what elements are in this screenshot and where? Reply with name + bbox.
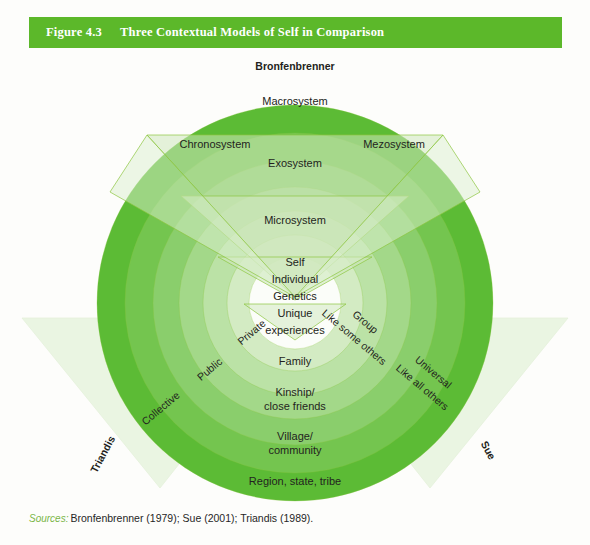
contextual-models-diagram: Bronfenbrenner Macrosystem Exosystem Mic… [0, 48, 590, 503]
sources-text: Bronfenbrenner (1979); Sue (2001); Trian… [70, 512, 313, 524]
ring-label-kinship-1: Kinship/ [275, 386, 315, 398]
ring-label-self: Self [286, 256, 306, 268]
label-mezosystem: Mezosystem [363, 138, 425, 150]
bronfenbrenner-model-name: Bronfenbrenner [255, 60, 334, 72]
diagram-svg: Bronfenbrenner Macrosystem Exosystem Mic… [0, 48, 590, 503]
triandis-model-name: Triandis [88, 433, 118, 474]
figure-number: Figure 4.3 [46, 25, 102, 40]
ring-label-village-1: Village/ [277, 430, 314, 442]
ring-label-genetics: Genetics [273, 290, 317, 302]
figure-caption-bar: Figure 4.3 Three Contextual Models of Se… [29, 17, 562, 48]
ring-label-unique: Unique [278, 307, 313, 319]
label-chronosystem: Chronosystem [180, 138, 251, 150]
ring-label-village-2: community [268, 444, 322, 456]
ring-label-family: Family [279, 355, 312, 367]
label-macrosystem: Macrosystem [262, 95, 327, 107]
ring-label-individual: Individual [272, 273, 318, 285]
ring-label-kinship-2: close friends [264, 400, 326, 412]
ring-label-experiences: experiences [265, 324, 325, 336]
sue-model-name: Sue [479, 439, 499, 462]
label-exosystem: Exosystem [268, 157, 322, 169]
sources-line: Sources:Bronfenbrenner (1979); Sue (2001… [29, 512, 313, 524]
label-microsystem: Microsystem [264, 214, 326, 226]
figure-page: Figure 4.3 Three Contextual Models of Se… [0, 0, 590, 545]
figure-title: Three Contextual Models of Self in Compa… [120, 25, 384, 40]
ring-label-region: Region, state, tribe [249, 475, 341, 487]
sources-label: Sources: [29, 513, 68, 524]
